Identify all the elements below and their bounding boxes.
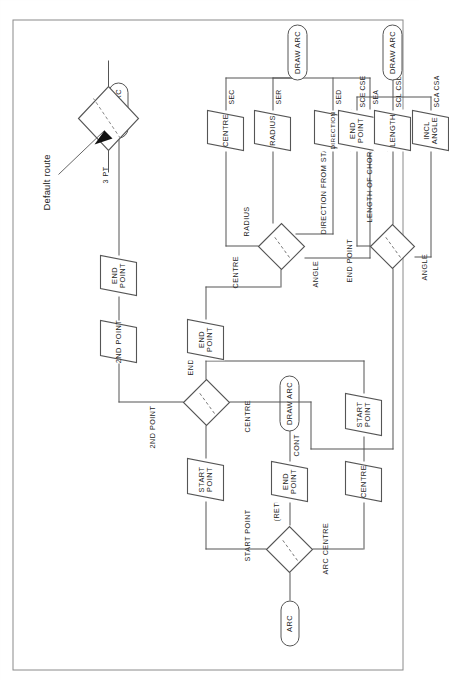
edge-d3-direction-right [332,150,333,234]
edge-d2-up [118,401,183,402]
edge-d2-up-right [118,362,119,402]
edge-radius-out [272,77,273,110]
end-point-centre-label: END POINT [186,318,224,360]
edge-d1-up-right [205,500,206,549]
edge-centre2-out [225,77,226,110]
edge-label-end-point: END POINT [345,238,353,282]
node-draw-arc-4: DRAW ARC [382,24,402,80]
node-length: LENGTH [373,109,411,151]
option-code-sca: SCA [432,92,440,107]
edge-2ndpoint-to-endpoint [118,295,119,320]
node-centre-2: CENTRE [206,109,244,151]
node-decision-2[interactable] [182,378,230,426]
edge-d4-length [392,150,393,224]
start-terminal-label: ARC [285,615,293,632]
node-start-point-1: START POINT [186,457,224,501]
edge-label-length-of-chord: LENGTH OF CHORD [357,197,382,237]
edge-d4-rail [356,96,431,97]
end-point-return-label: END POINT [270,460,308,502]
edge-d4-endpoint-right [356,150,357,246]
option-code-ser: SER [274,89,282,104]
edge-d2-down-left-down [310,448,393,449]
edge-into-decision3 [280,269,281,287]
edge-d4-endpoint-up [356,245,370,246]
end-point-chord-label: END POINT [337,109,375,151]
edge-d3-radius [272,150,273,223]
end-point-3pt-label: END POINT [99,254,137,296]
edge-endpointcentre-right [205,286,206,319]
draw-arc-1-label: DRAW ARC [285,381,293,424]
edge-label-centre-2: CENTRE [231,255,239,288]
length-label: LENGTH [373,109,411,151]
edge-d4-angle-right [430,150,431,257]
edge-label-radius: RADIUS [242,206,250,236]
node-end-point-centre: END POINT [186,318,224,360]
option-code-sed: SED [334,89,342,104]
legend: Default route [38,35,158,210]
edge-d2-down-left [310,401,311,449]
node-radius: RADIUS [253,109,291,151]
centre-1-label: CENTRE [344,460,382,502]
node-end-point-return: END POINT [270,460,308,502]
radius-label: RADIUS [253,109,291,151]
option-code-scl: SCL [394,93,402,107]
option-code-cse: CSE [358,75,366,90]
edge-d4-angle-down [414,256,431,257]
node-incl-angle-2: INCL ANGLE [411,109,449,151]
node-decision-1[interactable] [265,525,313,573]
node-decision-3[interactable] [257,222,305,270]
edge-inclangle2-out [430,96,431,110]
edge-label-2nd-point: 2ND POINT [148,405,156,448]
node-draw-arc-3: DRAW ARC [287,24,307,80]
edge-endpointcentre-down [205,286,280,287]
draw-arc-3-label: DRAW ARC [293,30,301,73]
edge-endpoint-to-draw1 [289,430,290,461]
edge-d1-down-right [363,501,364,549]
option-code-sec: SEC [227,89,235,104]
edge-startpoint2-right [363,360,364,393]
option-code-csa: CSA [432,75,440,90]
edge-label-centre: CENTRE [243,399,251,432]
edge-direction-out [332,77,333,110]
edge-label-cont: CONT [292,434,300,456]
node-centre-1: CENTRE [344,460,382,502]
edge-d3-centre-up [225,245,258,246]
edge-d1-return [289,501,290,525]
centre-2-label: CENTRE [206,109,244,151]
incl-angle-2-label: INCL ANGLE [411,109,449,151]
2nd-point-label: 2ND POINT [99,319,137,363]
edge-d3-merge-rail [272,77,370,78]
edge-length-out [392,79,393,110]
node-start-terminal: ARC [280,600,299,646]
draw-arc-4-label: DRAW ARC [388,30,396,73]
edge-d3-centre-right [225,150,226,246]
edge-endpointchord-out [356,96,357,110]
node-end-point-3pt: END POINT [99,254,137,296]
start-point-2-label: START POINT [344,392,382,436]
edge-d3-direction-down [295,233,333,234]
node-end-point-chord: END POINT [337,109,375,151]
edge-inclangle1-out [369,77,370,110]
node-draw-arc-1: DRAW ARC [279,375,299,431]
node-start-point-2: START POINT [344,392,382,436]
node-2nd-point: 2ND POINT [99,319,137,363]
edge-d2-down [229,401,311,402]
edge-d2-end [205,359,206,379]
rail-left-vertical [205,360,364,361]
edge-d1-up [205,548,266,549]
edge-d3-angle-down [304,257,370,258]
edge-label-start-point: START POINT [243,509,251,561]
edge-arc-to-decision1 [289,572,290,600]
edge-to-decision4 [392,268,393,449]
start-point-1-label: START POINT [186,457,224,501]
edge-startpoint1-to-d2 [205,425,206,458]
edge-d1-down [312,548,363,549]
edge-label-angle: ANGLE [311,260,319,287]
edge-label-end: END [186,358,194,375]
option-code-sce: SCE [358,92,366,107]
